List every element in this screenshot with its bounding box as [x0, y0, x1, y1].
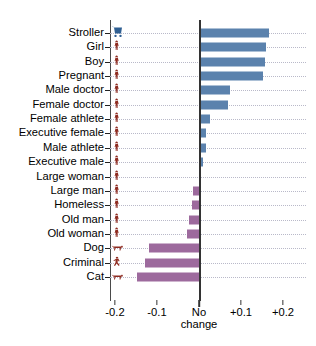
y-axis-tick: [105, 105, 110, 106]
y-axis-tick: [105, 119, 110, 120]
girl-pictogram: [111, 40, 133, 55]
old-woman-pictogram: [111, 226, 133, 241]
gridline: [110, 234, 306, 235]
y-axis-tick: [105, 220, 110, 221]
x-axis-tick: [114, 300, 115, 305]
y-axis-tick: [105, 277, 110, 278]
y-axis-label: Criminal: [63, 257, 104, 268]
male-doctor-pictogram: [111, 83, 133, 98]
dog-pictogram: [111, 241, 133, 256]
bar-boy: [199, 57, 265, 66]
y-axis-label: Female athlete: [30, 113, 104, 124]
x-axis-label: -0.2: [105, 307, 124, 318]
bar-male-doctor: [199, 86, 230, 95]
bar-homeless: [192, 201, 199, 210]
y-axis-label: Old man: [62, 214, 104, 225]
y-axis-tick: [105, 234, 110, 235]
bar-female-athlete: [199, 115, 210, 124]
x-axis-zero-label-line: No: [181, 307, 218, 319]
y-axis-tick: [105, 90, 110, 91]
criminal-pictogram: [111, 255, 133, 270]
large-man-pictogram: [111, 183, 133, 198]
y-axis-tick: [105, 205, 110, 206]
y-axis-label: Large man: [51, 185, 105, 196]
y-axis-label: Dog: [83, 243, 104, 254]
old-man-pictogram: [111, 212, 133, 227]
y-axis-label: Old woman: [47, 228, 104, 239]
y-axis-tick: [105, 191, 110, 192]
y-axis-label: Male athlete: [43, 142, 104, 153]
gridline: [110, 148, 306, 149]
bar-girl: [199, 43, 266, 52]
y-axis-tick: [105, 133, 110, 134]
character-preference-bar-chart: StrollerGirlBoyPregnantMale doctorFemale…: [0, 0, 316, 346]
x-axis-tick: [240, 300, 241, 305]
plot-area: [110, 26, 306, 298]
gridline: [110, 177, 306, 178]
x-axis-label: Nochange: [181, 307, 218, 330]
y-axis-label: Girl: [87, 42, 104, 53]
x-axis-tick: [282, 300, 283, 305]
y-axis-label: Executive male: [28, 157, 104, 168]
bar-female-doctor: [199, 100, 228, 109]
bar-cat: [137, 272, 199, 281]
y-axis-label: Large woman: [36, 171, 104, 182]
y-axis-tick: [105, 148, 110, 149]
gridline: [110, 220, 306, 221]
boy-pictogram: [111, 54, 133, 69]
gridline: [110, 133, 306, 134]
female-doctor-pictogram: [111, 97, 133, 112]
y-axis-label: Executive female: [19, 128, 104, 139]
y-axis-label-column: StrollerGirlBoyPregnantMale doctorFemale…: [0, 26, 104, 298]
female-athlete-pictogram: [111, 112, 133, 127]
x-axis-label: -0.1: [147, 307, 166, 318]
y-axis-label: Pregnant: [59, 70, 104, 81]
y-axis-tick: [105, 162, 110, 163]
bar-old-man: [189, 215, 199, 224]
bar-old-woman: [187, 229, 199, 238]
y-axis-tick: [105, 47, 110, 48]
bar-stroller: [199, 29, 269, 38]
y-axis-tick: [105, 263, 110, 264]
x-axis-tick: [156, 300, 157, 305]
executive-female-pictogram: [111, 126, 133, 141]
bar-pregnant: [199, 72, 263, 81]
y-axis-label: Cat: [87, 271, 104, 282]
y-axis-label: Homeless: [54, 200, 104, 211]
gridline: [110, 191, 306, 192]
male-athlete-pictogram: [111, 140, 133, 155]
bar-dog: [149, 244, 199, 253]
bar-criminal: [145, 258, 199, 267]
y-axis-tick: [105, 177, 110, 178]
y-axis-label: Female doctor: [32, 99, 104, 110]
x-axis-label: +0.2: [272, 307, 294, 318]
x-axis: -0.2-0.1Nochange+0.1+0.2: [110, 300, 306, 344]
y-axis-tick: [105, 76, 110, 77]
y-axis-tick: [105, 248, 110, 249]
gridline: [110, 162, 306, 163]
y-axis-label: Boy: [85, 56, 104, 67]
y-axis-tick: [105, 62, 110, 63]
y-axis-tick: [105, 33, 110, 34]
gridline: [110, 248, 306, 249]
pregnant-pictogram: [111, 69, 133, 84]
cat-pictogram: [111, 269, 133, 284]
gridline: [110, 263, 306, 264]
stroller-pictogram: [111, 26, 133, 41]
large-woman-pictogram: [111, 169, 133, 184]
y-axis-label: Stroller: [69, 27, 104, 38]
x-axis-zero-label-line: change: [181, 319, 218, 331]
homeless-pictogram: [111, 198, 133, 213]
zero-reference-line: [199, 20, 201, 301]
gridline: [110, 205, 306, 206]
executive-male-pictogram: [111, 155, 133, 170]
x-axis-label: +0.1: [230, 307, 252, 318]
y-axis-label: Male doctor: [46, 85, 104, 96]
